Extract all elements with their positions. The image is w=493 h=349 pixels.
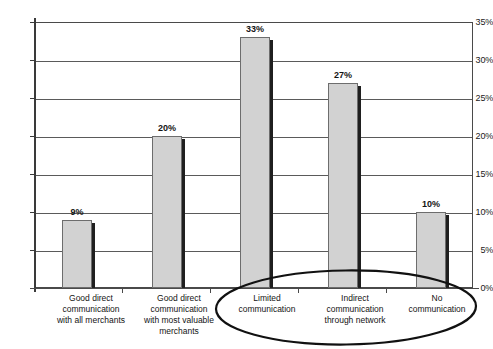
bar-value-5: 10%: [402, 200, 460, 209]
bar-5: [416, 212, 446, 288]
bar-3: [240, 37, 270, 288]
bar-1-shadow: [92, 223, 95, 288]
bar-2-shadow: [182, 139, 185, 288]
bar-1: [62, 220, 92, 288]
category-label-2-line-4: merchants: [120, 326, 238, 337]
y-tick-mark-15: [30, 174, 34, 175]
y-tick-label-20: 20%: [463, 132, 493, 141]
bar-4: [328, 83, 358, 288]
bar-value-1: 9%: [48, 208, 106, 217]
y-tick-mark-5: [30, 250, 34, 251]
y-tick-mark-20: [30, 136, 34, 137]
y-tick-label-30: 30%: [463, 56, 493, 65]
category-label-5: No communication: [384, 293, 490, 315]
bar-2: [152, 136, 182, 288]
bar-value-2: 20%: [138, 124, 196, 133]
category-label-2-line-3: with most valuable: [120, 315, 238, 326]
bar-value-4: 27%: [314, 71, 372, 80]
y-tick-mark-10: [30, 212, 34, 213]
y-tick-mark-25: [30, 98, 34, 99]
y-tick-label-35: 35%: [463, 18, 493, 27]
y-axis: [34, 18, 36, 292]
y-tick-label-5: 5%: [463, 246, 493, 255]
bar-4-shadow: [358, 86, 361, 288]
bar-value-3: 33%: [226, 25, 284, 34]
y-tick-mark-35: [30, 22, 34, 23]
y-tick-mark-30: [30, 60, 34, 61]
y-tick-label-15: 15%: [463, 170, 493, 179]
category-label-5-line-1: No: [384, 293, 490, 304]
category-label-5-line-2: communication: [384, 304, 490, 315]
bar-3-shadow: [270, 40, 273, 288]
bar-chart: 35% 30% 25% 20% 15% 10% 5% 0% 9%: [0, 0, 493, 349]
category-label-4-line-3: through network: [296, 315, 414, 326]
x-axis: [30, 288, 479, 289]
bar-5-shadow: [446, 215, 449, 288]
y-tick-label-25: 25%: [463, 94, 493, 103]
y-tick-label-10: 10%: [463, 208, 493, 217]
